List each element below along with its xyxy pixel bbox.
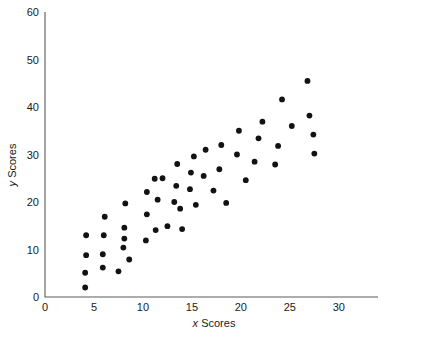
data-point [260, 119, 266, 125]
data-point [153, 227, 159, 233]
data-point [188, 170, 194, 176]
data-point [203, 147, 209, 153]
data-point [126, 257, 132, 263]
x-tick-20: 20 [235, 301, 247, 313]
scatter-plot-canvas: 0102030405060 051015202530 y Scores x Sc… [0, 0, 428, 340]
data-point [177, 206, 183, 212]
x-tick-15: 15 [186, 301, 198, 313]
y-tick-60: 60 [27, 6, 39, 18]
data-point [305, 78, 311, 84]
x-axis-title-text: Scores [198, 317, 236, 329]
x-tick-25: 25 [284, 301, 296, 313]
svg-text:y Scores: y Scores [6, 143, 18, 187]
data-point [144, 211, 150, 217]
data-point [100, 251, 106, 257]
data-point [165, 223, 171, 229]
data-point [310, 132, 316, 138]
x-tick-0: 0 [42, 301, 48, 313]
data-point [100, 265, 106, 271]
data-point [101, 232, 107, 238]
x-tick-5: 5 [91, 301, 97, 313]
data-point [243, 177, 249, 183]
data-point [155, 197, 161, 203]
data-point [116, 268, 122, 274]
y-tick-30: 30 [27, 149, 39, 161]
data-point [121, 236, 127, 242]
y-tick-0: 0 [33, 291, 39, 303]
data-point [82, 285, 88, 291]
x-tick-30: 30 [333, 301, 345, 313]
data-point [275, 143, 281, 149]
data-point [121, 225, 127, 231]
y-tick-10: 10 [27, 244, 39, 256]
data-point [289, 123, 295, 129]
data-point [174, 161, 180, 167]
data-point [223, 200, 229, 206]
data-point [120, 245, 126, 251]
y-axis-title: y Scores [6, 143, 18, 187]
data-point [152, 176, 158, 182]
data-point [201, 173, 207, 179]
data-point [82, 270, 88, 276]
data-point [143, 238, 149, 244]
x-tick-10: 10 [137, 301, 149, 313]
data-point [102, 214, 108, 220]
data-point [236, 128, 242, 134]
data-point [252, 159, 258, 165]
data-point [307, 113, 313, 119]
data-point [211, 188, 217, 194]
data-point [272, 162, 278, 168]
y-tick-20: 20 [27, 196, 39, 208]
data-point [122, 201, 128, 207]
data-point [160, 175, 166, 181]
data-point [187, 186, 193, 192]
data-point [179, 226, 185, 232]
data-point [173, 183, 179, 189]
data-point [311, 151, 317, 157]
data-point [144, 189, 150, 195]
data-point [83, 232, 89, 238]
data-point [193, 202, 199, 208]
plot-background [0, 0, 428, 340]
y-tick-50: 50 [27, 54, 39, 66]
data-point [216, 166, 222, 172]
y-tick-40: 40 [27, 101, 39, 113]
data-point [256, 135, 262, 141]
x-axis-title: x Scores [192, 317, 236, 329]
data-point [171, 199, 177, 205]
data-point [279, 97, 285, 103]
data-point [191, 154, 197, 160]
data-point [83, 252, 89, 258]
scatter-plot-figure: 0102030405060 051015202530 y Scores x Sc… [0, 0, 428, 340]
y-axis-title-text: Scores [6, 143, 18, 181]
data-point [218, 142, 224, 148]
data-point [234, 152, 240, 158]
